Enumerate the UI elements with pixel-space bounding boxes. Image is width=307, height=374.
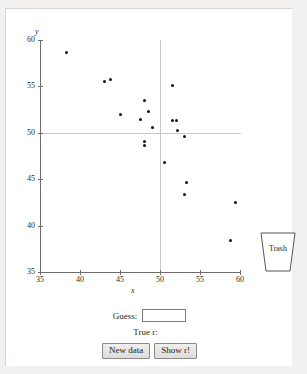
applet-window: y x 354045505560 354045505560 Trash Gues… bbox=[0, 0, 307, 374]
data-point[interactable] bbox=[109, 78, 112, 81]
data-point[interactable] bbox=[147, 110, 150, 113]
data-point[interactable] bbox=[185, 181, 188, 184]
data-point[interactable] bbox=[143, 140, 146, 143]
data-point[interactable] bbox=[171, 119, 174, 122]
y-tick-label: 40 bbox=[17, 221, 35, 230]
y-tick-label: 60 bbox=[17, 35, 35, 44]
y-tick bbox=[38, 226, 43, 227]
trash-bin[interactable]: Trash bbox=[259, 231, 297, 273]
x-axis-title: x bbox=[131, 286, 135, 295]
data-point[interactable] bbox=[183, 135, 186, 138]
true-r-row: True r: bbox=[6, 327, 293, 337]
true-r-label: True r: bbox=[133, 327, 157, 337]
data-point[interactable] bbox=[151, 126, 154, 129]
x-tick-label: 35 bbox=[30, 275, 50, 284]
x-tick-label: 55 bbox=[190, 275, 210, 284]
mean-reference-line-horizontal bbox=[40, 133, 241, 134]
data-point[interactable] bbox=[103, 80, 106, 83]
y-tick-label: 55 bbox=[17, 81, 35, 90]
x-tick-label: 45 bbox=[110, 275, 130, 284]
x-tick-label: 60 bbox=[230, 275, 250, 284]
data-point[interactable] bbox=[229, 239, 232, 242]
mean-reference-line-vertical bbox=[160, 40, 161, 273]
y-tick-label: 45 bbox=[17, 174, 35, 183]
data-point[interactable] bbox=[139, 118, 142, 121]
new-data-button[interactable]: New data bbox=[102, 343, 150, 359]
y-axis-title: y bbox=[35, 27, 39, 36]
buttons-row: New data Show r! bbox=[6, 343, 293, 359]
y-tick bbox=[38, 86, 43, 87]
y-tick-label: 50 bbox=[17, 128, 35, 137]
show-r-button[interactable]: Show r! bbox=[154, 343, 197, 359]
data-point[interactable] bbox=[234, 201, 237, 204]
data-point[interactable] bbox=[171, 84, 174, 87]
guess-row: Guess: bbox=[6, 309, 293, 322]
y-tick bbox=[38, 179, 43, 180]
y-tick bbox=[38, 40, 43, 41]
data-point[interactable] bbox=[119, 113, 122, 116]
data-point[interactable] bbox=[176, 129, 179, 132]
x-axis bbox=[40, 272, 241, 273]
data-point[interactable] bbox=[175, 119, 178, 122]
data-point[interactable] bbox=[183, 193, 186, 196]
data-point[interactable] bbox=[163, 161, 166, 164]
y-axis bbox=[40, 40, 41, 273]
controls-area: Guess: True r: New data Show r! bbox=[6, 309, 293, 364]
guess-label: Guess: bbox=[113, 311, 138, 321]
guess-input[interactable] bbox=[142, 309, 186, 322]
data-point[interactable] bbox=[143, 144, 146, 147]
applet-panel: y x 354045505560 354045505560 Trash Gues… bbox=[5, 8, 292, 366]
x-tick-label: 50 bbox=[150, 275, 170, 284]
data-point[interactable] bbox=[65, 51, 68, 54]
trash-label: Trash bbox=[259, 244, 297, 253]
y-tick bbox=[38, 133, 43, 134]
x-tick-label: 40 bbox=[70, 275, 90, 284]
data-point[interactable] bbox=[143, 99, 146, 102]
scatter-plot[interactable]: y x 354045505560 354045505560 bbox=[6, 9, 256, 294]
